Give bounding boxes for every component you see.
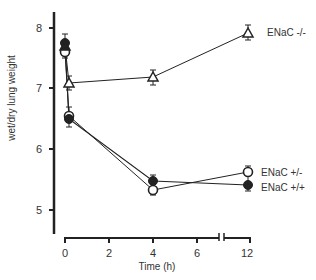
x-tick-label-12: 12	[241, 247, 253, 259]
y-tick-label-8: 8	[36, 22, 42, 34]
y-tick-label-5: 5	[36, 204, 42, 216]
x-tick-label-6: 6	[194, 247, 200, 259]
y-tick-label-7: 7	[36, 82, 42, 94]
error-bars	[62, 25, 251, 195]
x-axis-label: Time (h)	[139, 261, 176, 272]
legend-label-enac-ko: ENaC -/-	[267, 27, 306, 38]
markers-enac-wt	[61, 39, 253, 190]
x-tick-label-4: 4	[150, 247, 156, 259]
line-chart: 8 7 6 5 wet/dry lung weight 0 2 4 6 12 T…	[0, 0, 316, 280]
y-tick-label-6: 6	[36, 143, 42, 155]
x-tick-label-0: 0	[62, 247, 68, 259]
y-axis-label: wet/dry lung weight	[6, 55, 17, 142]
markers-enac-ko	[60, 28, 253, 87]
legend-label-enac-wt: ENaC +/+	[261, 182, 305, 193]
x-tick-label-2: 2	[106, 247, 112, 259]
legend-label-enac-het: ENaC +/-	[261, 167, 302, 178]
series-line-enac-wt	[65, 43, 248, 185]
series-line-enac-ko	[65, 33, 248, 83]
markers-enac-het	[61, 48, 253, 195]
series-line-enac-het	[65, 52, 248, 190]
